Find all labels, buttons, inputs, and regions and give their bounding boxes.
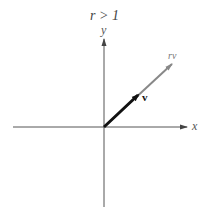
x-axis-label: x <box>192 119 197 134</box>
y-axis-label: y <box>101 23 106 38</box>
rv-vector-label: rv <box>168 50 176 61</box>
diagram-title: r > 1 <box>90 8 119 24</box>
v-vector-label: v <box>142 91 148 103</box>
vector-v <box>104 95 138 127</box>
diagram-canvas <box>0 0 217 216</box>
